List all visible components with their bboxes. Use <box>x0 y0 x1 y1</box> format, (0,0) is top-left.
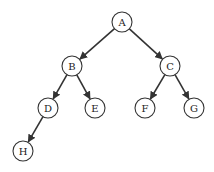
edge-b-d <box>53 75 67 99</box>
node-h: H <box>13 141 33 161</box>
edges-group <box>28 29 189 142</box>
node-a: A <box>112 12 132 32</box>
node-c: C <box>160 56 180 76</box>
edge-c-f <box>150 75 165 99</box>
node-label: C <box>166 61 174 72</box>
node-e: E <box>85 98 105 118</box>
node-label: F <box>142 103 149 114</box>
node-label: E <box>91 103 98 114</box>
edge-b-e <box>77 75 90 99</box>
node-g: G <box>184 98 204 118</box>
tree-diagram: ABCDEFGH <box>0 0 214 172</box>
node-label: H <box>19 146 28 157</box>
edge-a-c <box>129 29 162 59</box>
node-b: B <box>62 56 82 76</box>
node-d: D <box>38 98 58 118</box>
edge-c-g <box>175 75 189 99</box>
node-label: D <box>44 103 52 114</box>
edge-d-h <box>28 117 43 142</box>
node-label: A <box>117 17 126 28</box>
edge-a-b <box>80 29 115 59</box>
node-f: F <box>135 98 155 118</box>
node-label: G <box>190 103 198 114</box>
node-label: B <box>68 61 75 72</box>
